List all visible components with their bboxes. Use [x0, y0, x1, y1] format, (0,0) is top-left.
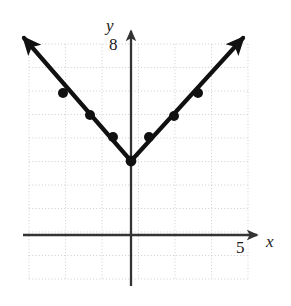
graph-figure: y x 8 5: [0, 0, 291, 306]
data-point: [85, 110, 95, 120]
data-point: [169, 111, 179, 121]
y-axis-tick-label-8: 8: [109, 36, 118, 53]
data-point: [126, 156, 137, 167]
coordinate-plane: [0, 0, 291, 306]
x-axis-label: x: [266, 233, 274, 250]
function-curve-right: [131, 38, 243, 161]
x-axis-tick-label-5: 5: [236, 239, 245, 256]
y-axis-label: y: [106, 17, 114, 34]
function-curve: [24, 38, 131, 161]
data-point: [58, 88, 68, 98]
data-point: [193, 88, 203, 98]
data-point: [144, 132, 154, 142]
data-point: [108, 132, 118, 142]
